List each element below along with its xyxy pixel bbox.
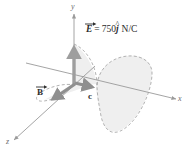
e-vector-arrow-accent: E	[86, 25, 92, 35]
em-wave-figure: y x z B c E =750^jN/C	[0, 0, 191, 152]
hat-accent-icon: ^	[115, 21, 119, 29]
x-axis-label: x	[178, 95, 182, 103]
e-field-units: N/C	[122, 24, 138, 34]
b-vector-arrow-accent: B	[37, 88, 43, 97]
y-axis-label: y	[71, 3, 75, 11]
z-axis-label: z	[6, 138, 9, 146]
e-field-symbol: E	[86, 25, 92, 35]
c-propagation-label: c	[88, 92, 92, 101]
e-field-magnitude: 750	[102, 24, 116, 34]
b-field-label: B	[37, 88, 43, 97]
equation-equals-sign: =	[94, 24, 99, 34]
j-hat-unit-vector: ^j	[116, 25, 119, 35]
wave-fill-group	[44, 44, 152, 132]
right-wave-lobe-fill	[96, 56, 152, 132]
z-axis	[14, 66, 95, 140]
em-wave-canvas	[0, 0, 191, 152]
b-field-symbol: B	[37, 88, 43, 97]
e-field-equation-label: E =750^jN/C	[86, 25, 137, 35]
